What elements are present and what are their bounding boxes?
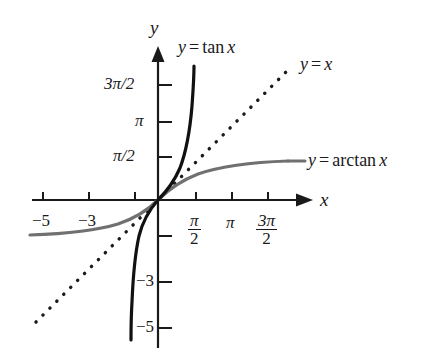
x-tick-label--3: −3 — [78, 212, 96, 229]
identity-label-lhs: y — [300, 54, 308, 74]
x-tick-label-pi: π — [226, 214, 235, 231]
y-axis-label: y — [150, 18, 158, 37]
curve-label-tan: y=tanx — [178, 38, 235, 56]
y-tick-label--3: −3 — [136, 272, 154, 289]
identity-label-variable: x — [324, 54, 332, 74]
y-tick-label-pi: π — [135, 112, 144, 129]
x-tick-3pi-over-2-numerator: 3π — [256, 212, 277, 229]
y-tick-label-3pi-over-2: 3π/2 — [104, 75, 134, 92]
y-tick-label-pi-over-2: π/2 — [113, 147, 135, 164]
identity-label-equals: = — [308, 54, 324, 74]
x-tick-pi-over-2-numerator: π — [188, 212, 201, 229]
tan-label-lhs: y — [178, 37, 186, 57]
x-tick-label-pi-over-2: π 2 — [188, 212, 201, 248]
figure-canvas: y x 3π/2 π π/2 −3 −5 −5 −3 π 2 π 3π 2 y=… — [0, 0, 422, 359]
tan-label-variable: x — [224, 37, 235, 57]
arctan-label-equals: = — [316, 150, 332, 170]
curve-label-identity: y=x — [300, 55, 332, 73]
curve-label-arctan: y=arctanx — [308, 151, 387, 169]
x-axis-label: x — [320, 190, 328, 209]
x-tick-pi-over-2-denominator: 2 — [188, 229, 201, 247]
x-tick-label--5: −5 — [32, 212, 50, 229]
x-tick-label-3pi-over-2: 3π 2 — [256, 212, 277, 248]
arctan-label-variable: x — [376, 150, 387, 170]
arctan-label-function: arctan — [332, 150, 376, 170]
arctan-label-lhs: y — [308, 150, 316, 170]
x-tick-3pi-over-2-denominator: 2 — [256, 229, 277, 247]
x-axis-arrowhead — [296, 194, 313, 207]
y-tick-label--5: −5 — [136, 318, 154, 335]
tan-label-equals: = — [186, 37, 202, 57]
tan-label-function: tan — [202, 37, 224, 57]
y-axis-arrowhead — [152, 46, 165, 62]
